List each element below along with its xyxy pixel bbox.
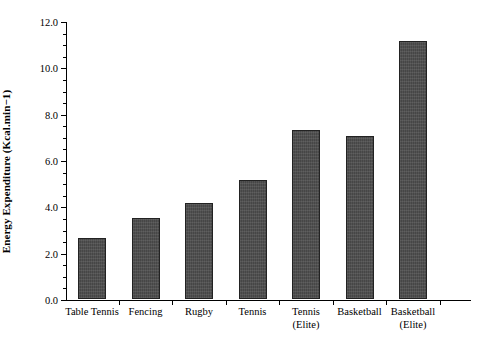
y-tick-label: 0.0 (45, 295, 58, 306)
y-axis-title: Energy Expenditure (Kcal.min−1) (0, 0, 30, 343)
x-axis-line (66, 300, 471, 301)
y-tick-minor (63, 34, 66, 35)
y-tick-label: 10.0 (40, 63, 58, 74)
y-tick-minor (63, 80, 66, 81)
y-tick-minor (63, 92, 66, 93)
bar (346, 136, 374, 299)
y-tick-minor (63, 184, 66, 185)
y-axis-line (66, 22, 67, 301)
y-tick-major (61, 22, 66, 23)
y-tick-minor (63, 149, 66, 150)
bar (292, 130, 320, 299)
y-tick-major (61, 300, 66, 301)
y-tick-minor (63, 288, 66, 289)
y-tick-minor (63, 138, 66, 139)
y-tick-minor (63, 277, 66, 278)
y-tick-minor (63, 103, 66, 104)
y-tick-minor (63, 231, 66, 232)
y-tick-minor (63, 126, 66, 127)
y-tick-minor (63, 219, 66, 220)
y-tick-label: 6.0 (45, 156, 58, 167)
bar (399, 41, 427, 299)
y-tick-label: 12.0 (40, 17, 58, 28)
y-tick-major (61, 254, 66, 255)
y-tick-label: 2.0 (45, 248, 58, 259)
bar (132, 218, 160, 299)
y-tick-minor (63, 45, 66, 46)
bar (185, 203, 213, 299)
y-tick-label: 8.0 (45, 109, 58, 120)
x-tick-label: Basketball (Elite) (374, 305, 452, 331)
y-tick-label: 4.0 (45, 202, 58, 213)
y-tick-major (61, 68, 66, 69)
y-tick-major (61, 161, 66, 162)
bar-chart-figure: Energy Expenditure (Kcal.min−1) 0.02.04.… (0, 0, 481, 343)
bar (78, 238, 106, 299)
bar (239, 180, 267, 299)
y-tick-major (61, 207, 66, 208)
plot-area: 0.02.04.06.08.010.012.0 Table TennisFenc… (66, 22, 471, 300)
y-tick-minor (63, 173, 66, 174)
y-tick-minor (63, 57, 66, 58)
y-tick-minor (63, 265, 66, 266)
y-tick-minor (63, 196, 66, 197)
y-tick-major (61, 115, 66, 116)
y-tick-minor (63, 242, 66, 243)
